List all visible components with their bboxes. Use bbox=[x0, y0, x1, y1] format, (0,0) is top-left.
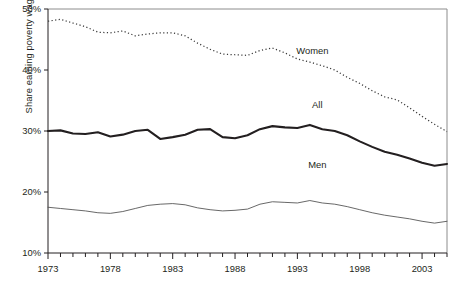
y-tick-label: 10% bbox=[22, 247, 41, 258]
series-label-all: All bbox=[312, 99, 322, 110]
chart-plot-area: 50%40%30%20%10% 197319781983198819931998… bbox=[0, 0, 453, 283]
data-series-group bbox=[48, 19, 447, 223]
series-line-women bbox=[48, 19, 447, 131]
y-axis-title: Share earning poverty wage bbox=[23, 0, 34, 144]
x-tick-label: 1988 bbox=[225, 263, 246, 274]
series-annotations: WomenAllMen bbox=[296, 45, 328, 169]
x-tick-label: 1993 bbox=[287, 263, 308, 274]
plot-border-top-right bbox=[48, 9, 447, 253]
series-label-women: Women bbox=[296, 45, 328, 56]
x-tick-label: 2003 bbox=[412, 263, 433, 274]
plot-frame bbox=[48, 9, 447, 253]
poverty-wage-line-chart: Share earning poverty wage 50%40%30%20%1… bbox=[0, 0, 453, 283]
series-line-all bbox=[48, 125, 447, 166]
series-line-men bbox=[48, 201, 447, 224]
x-tick-label: 1998 bbox=[349, 263, 370, 274]
x-tick-label: 1973 bbox=[38, 263, 59, 274]
plot-axis-left-bottom bbox=[48, 9, 447, 253]
y-tick-label: 20% bbox=[22, 186, 41, 197]
x-axis-ticks: 1973197819831988199319982003 bbox=[38, 253, 447, 274]
series-label-men: Men bbox=[308, 159, 326, 170]
x-tick-label: 1978 bbox=[100, 263, 121, 274]
x-tick-label: 1983 bbox=[162, 263, 183, 274]
